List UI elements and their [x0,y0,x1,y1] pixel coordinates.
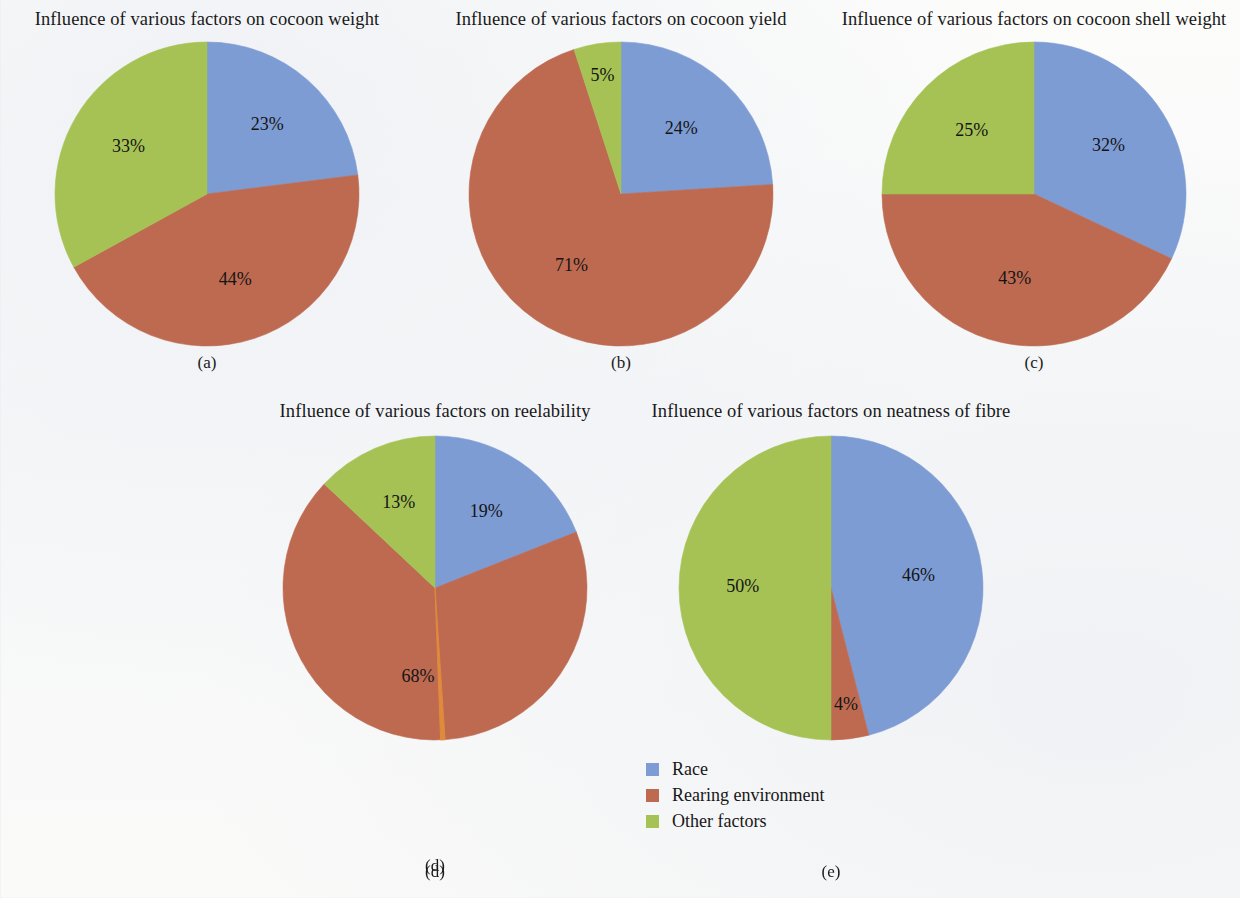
pie-slice-label: 33% [112,136,145,156]
panel-b: Influence of various factors on cocoon y… [414,8,828,383]
pie-slice-label: 5% [591,65,615,85]
panel-d: Influence of various factors on reelabil… [228,400,642,780]
legend: Race Rearing environment Other factors [646,757,824,835]
panel-c-pie: 32%43%25% [874,34,1194,354]
pie-slice-label: 43% [998,268,1031,288]
pie-c-svg: 32%43%25% [874,34,1194,354]
pie-slice-label: 32% [1092,135,1125,155]
panel-a-pie: 23%44%33% [47,34,367,354]
legend-swatch-other-factors [646,815,659,828]
panel-c-title: Influence of various factors on cocoon s… [828,8,1240,30]
pie-e-svg: 46%4%50% [671,428,991,748]
panel-a-caption: (a) [0,353,414,373]
legend-item-race[interactable]: Race [646,757,824,781]
pie-d-svg: 19%68%13% [275,428,595,748]
pie-slice-label: 23% [251,114,284,134]
legend-label-rearing-environment: Rearing environment [672,785,824,805]
panel-d-title: Influence of various factors on reelabil… [228,400,642,422]
legend-item-other-factors[interactable]: Other factors [646,809,824,833]
panel-b-pie: 24%71%5% [461,34,781,354]
pie-slice-label: 46% [902,565,935,585]
pie-slice-label: 68% [401,666,434,686]
legend-swatch-race [646,763,659,776]
pie-slice-label: 25% [955,120,988,140]
panel-b-caption: (b) [414,353,828,373]
legend-swatch-rearing-environment [646,789,659,802]
pie-slice-label: 19% [470,501,503,521]
panel-c-caption: (c) [828,353,1240,373]
panel-b-title: Influence of various factors on cocoon y… [414,8,828,30]
pie-a-svg: 23%44%33% [47,34,367,354]
pie-slice-other-factors[interactable] [882,42,1034,194]
pie-slice-label: 44% [219,269,252,289]
panel-e-caption-bottom: (e) [622,862,1040,882]
panel-e-title: Influence of various factors on neatness… [622,400,1040,422]
panel-a-title: Influence of various factors on cocoon w… [0,8,414,30]
panel-c: Influence of various factors on cocoon s… [828,8,1240,383]
pie-slice-label: 13% [382,492,415,512]
panel-e: Influence of various factors on neatness… [622,400,1040,780]
pie-slice-label: 50% [726,576,759,596]
pie-slice-label: 71% [555,255,588,275]
panel-a: Influence of various factors on cocoon w… [0,8,414,383]
pie-b-svg: 24%71%5% [461,34,781,354]
legend-label-other-factors: Other factors [672,811,766,831]
panel-d-caption-bottom: (d) [228,862,642,882]
pie-chart-figure: Influence of various factors on cocoon w… [0,0,1240,898]
pie-slice-label: 24% [665,118,698,138]
panel-d-pie: 19%68%13% [275,428,595,748]
panel-e-pie: 46%4%50% [671,428,991,748]
legend-label-race: Race [672,759,708,779]
legend-item-rearing-environment[interactable]: Rearing environment [646,783,824,807]
pie-slice-label: 4% [834,694,858,714]
